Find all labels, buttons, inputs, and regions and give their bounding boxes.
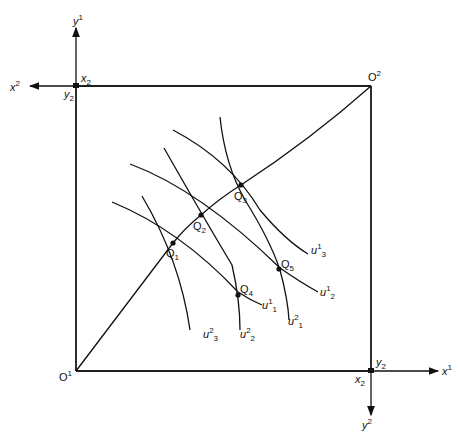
label-u1-3: u13 — [311, 243, 326, 259]
label-u1-2: u12 — [320, 285, 335, 301]
label-u2-1: u21 — [288, 314, 303, 330]
point-q2 — [198, 212, 203, 217]
label-u1-1: u11 — [262, 298, 277, 314]
label-q1: Q1 — [166, 248, 179, 262]
origin-o1: O1 — [59, 370, 72, 383]
label-q5: Q5 — [281, 259, 294, 273]
contract-curve — [76, 86, 371, 371]
axis-label-x1: x1 — [442, 364, 452, 377]
label-q4: Q4 — [240, 284, 253, 298]
axis-label-y2: y2 — [362, 418, 372, 431]
corner-label-y2-top: y2 — [64, 89, 74, 103]
curve-u2-3 — [142, 196, 190, 330]
label-u2-3: u23 — [203, 327, 218, 343]
point-q3 — [238, 182, 243, 187]
curve-u2-2 — [164, 148, 240, 330]
label-u2-2: u22 — [240, 327, 255, 343]
corner-marker-bottom-right — [368, 368, 374, 373]
point-q1 — [170, 240, 175, 245]
origin-o2: O2 — [368, 70, 381, 83]
corner-label-x2-bottom: x2 — [355, 374, 365, 388]
label-q2: Q2 — [193, 221, 206, 235]
corner-label-y2-bottom: y2 — [376, 357, 386, 371]
curve-u2-1 — [220, 117, 289, 320]
label-q3: Q3 — [234, 191, 247, 205]
axis-label-y1: y1 — [73, 14, 83, 27]
corner-marker-top-left — [73, 83, 79, 88]
corner-label-x2-top: x2 — [81, 73, 91, 87]
axis-label-x2: x2 — [10, 80, 20, 93]
